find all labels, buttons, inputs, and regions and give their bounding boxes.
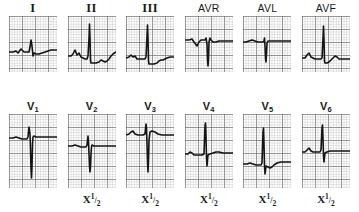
ecg-trace-AVF[interactable] <box>302 16 350 72</box>
scale-label-V4: X1/2 <box>200 189 218 204</box>
ecg-trace-V5[interactable] <box>243 114 291 188</box>
ecg-trace-V3[interactable] <box>126 114 174 188</box>
lead-subscript-V5: 5 <box>269 105 273 114</box>
lead-subscript-V3: 3 <box>152 105 156 114</box>
ecg-panel-lead-AVF[interactable]: AVF <box>300 2 352 102</box>
ecg-trace-V6[interactable] <box>302 114 350 188</box>
ecg-trace-I[interactable] <box>9 16 57 72</box>
ecg-svg-AVF <box>302 16 350 72</box>
ecg-panel-lead-V4[interactable]: V4 X1/2 <box>183 100 235 210</box>
grid-lines-V3 <box>126 114 174 188</box>
ecg-figure: I <box>0 0 359 212</box>
scale-prefix-V6: X <box>317 193 325 205</box>
lead-label-AVF: AVF <box>316 2 336 16</box>
scale-fraction-V2: 1/2 <box>91 196 101 205</box>
lead-letter-V1: V <box>27 100 35 112</box>
lead-label-V6: V6 <box>320 100 332 114</box>
ecg-svg-V6 <box>302 114 350 188</box>
ecg-panel-lead-II[interactable]: II <box>66 2 118 102</box>
scale-fraction-V4: 1/2 <box>208 196 218 205</box>
ecg-svg-V2 <box>68 114 116 188</box>
ecg-trace-II[interactable] <box>68 16 116 72</box>
ecg-panel-lead-V1[interactable]: V1 <box>7 100 59 210</box>
lead-label-AVL: AVL <box>258 2 278 16</box>
ecg-trace-V4[interactable] <box>185 114 233 188</box>
ecg-svg-V3 <box>126 114 174 188</box>
scale-label-V6: X1/2 <box>317 189 335 204</box>
ecg-trace-V2[interactable] <box>68 114 116 188</box>
scale-label-V2: X1/2 <box>83 189 101 204</box>
lead-label-III: III <box>142 2 158 16</box>
ecg-trace-AVR[interactable] <box>185 16 233 72</box>
lead-subscript-V4: 4 <box>210 105 214 114</box>
ecg-svg-V4 <box>185 114 233 188</box>
scale-label-V3: X1/2 <box>141 189 159 204</box>
scale-fraction-V3: 1/2 <box>149 196 159 205</box>
lead-label-V4: V4 <box>203 100 215 114</box>
grid-lines-I <box>9 16 57 72</box>
ecg-panel-lead-III[interactable]: III <box>124 2 176 102</box>
ecg-panel-lead-AVR[interactable]: AVR <box>183 2 235 102</box>
grid-lines-V5 <box>243 114 291 188</box>
ecg-svg-III <box>126 16 174 72</box>
lead-subscript-V2: 2 <box>93 105 97 114</box>
ecg-panel-lead-V2[interactable]: V2 X1/2 <box>66 100 118 210</box>
lead-label-V1: V1 <box>27 100 39 114</box>
lead-label-V3: V3 <box>144 100 156 114</box>
ecg-trace-V1[interactable] <box>9 114 57 188</box>
ecg-panel-lead-V6[interactable]: V6 X1/2 <box>300 100 352 210</box>
lead-letter-V6: V <box>320 100 328 112</box>
lead-label-V5: V5 <box>261 100 273 114</box>
ecg-panel-lead-V3[interactable]: V3 X1/2 <box>124 100 176 210</box>
ecg-panel-lead-AVL[interactable]: AVL <box>241 2 293 102</box>
grid-lines-V4 <box>185 114 233 188</box>
lead-label-I: I <box>30 2 35 16</box>
ecg-trace-III[interactable] <box>126 16 174 72</box>
ecg-svg-II <box>68 16 116 72</box>
lead-label-V2: V2 <box>86 100 98 114</box>
ecg-panel-lead-I[interactable]: I <box>7 2 59 102</box>
ecg-svg-I <box>9 16 57 72</box>
ecg-svg-AVL <box>243 16 291 72</box>
lead-letter-V3: V <box>144 100 152 112</box>
ecg-svg-V1 <box>9 114 57 188</box>
lead-subscript-V1: 1 <box>35 105 39 114</box>
lead-letter-V5: V <box>261 100 269 112</box>
lead-label-AVR: AVR <box>198 2 219 16</box>
ecg-row-limb-leads: I <box>0 2 359 102</box>
scale-prefix-V4: X <box>200 193 208 205</box>
scale-fraction-V5: 1/2 <box>266 196 276 205</box>
ecg-svg-V5 <box>243 114 291 188</box>
scale-prefix-V2: X <box>83 193 91 205</box>
scale-label-V5: X1/2 <box>259 189 277 204</box>
lead-subscript-V6: 6 <box>328 105 332 114</box>
scale-fraction-V6: 1/2 <box>325 196 335 205</box>
ecg-row-precordial-leads: V1 V2 X1/2 V3 <box>0 100 359 210</box>
ecg-trace-AVL[interactable] <box>243 16 291 72</box>
ecg-panel-lead-V5[interactable]: V5 X1/2 <box>241 100 293 210</box>
ecg-svg-AVR <box>185 16 233 72</box>
lead-label-II: II <box>86 2 97 16</box>
